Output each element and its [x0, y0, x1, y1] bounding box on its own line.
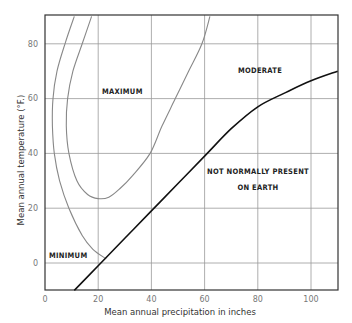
y-tick-80: 80 [28, 40, 38, 49]
chart: 0 20 40 60 80 100 0 20 40 60 80 Mean ann… [0, 0, 352, 323]
label-moderate: MODERATE [238, 66, 282, 75]
grid [45, 15, 338, 290]
plot-frame [45, 15, 338, 290]
x-ticks: 0 20 40 60 80 100 [42, 295, 318, 304]
y-tick-20: 20 [28, 204, 38, 213]
series-line-2 [74, 71, 337, 290]
x-tick-0: 0 [42, 295, 47, 304]
label-maximum: MAXIMUM [102, 87, 143, 96]
y-tick-60: 60 [28, 94, 38, 103]
x-axis-label: Mean annual precipitation in inches [104, 307, 256, 317]
x-tick-40: 40 [146, 295, 156, 304]
y-tick-0: 0 [33, 259, 38, 268]
y-ticks: 0 20 40 60 80 [28, 40, 38, 268]
label-not-present-1: NOT NORMALLY PRESENT [207, 167, 309, 176]
x-tick-20: 20 [93, 295, 103, 304]
x-tick-100: 100 [303, 295, 318, 304]
x-tick-80: 80 [253, 295, 263, 304]
x-tick-60: 60 [200, 295, 210, 304]
y-axis-label: Mean annual temperature (°F.) [16, 95, 26, 226]
label-minimum: MINIMUM [49, 251, 87, 260]
label-not-present-2: ON EARTH [237, 183, 278, 192]
y-tick-40: 40 [28, 149, 38, 158]
